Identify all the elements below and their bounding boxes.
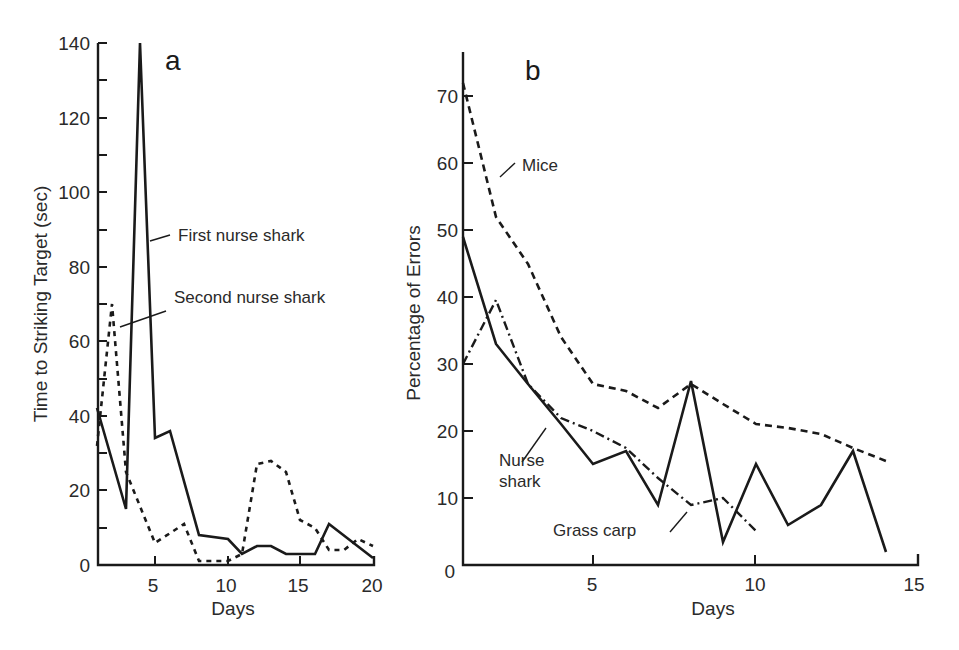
svg-text:80: 80 xyxy=(69,257,90,278)
annotation-first-nurse-shark: First nurse shark xyxy=(178,226,305,245)
series-grass-carp xyxy=(463,300,756,531)
figure: 0 20 40 60 80 100 120 140 5 10 15 20 Day… xyxy=(0,0,959,650)
chart-b-y-ticks xyxy=(463,96,473,498)
chart-a-panel-label: a xyxy=(165,45,181,76)
chart-b-y-axis-label: Percentage of Errors xyxy=(403,225,424,400)
svg-text:50: 50 xyxy=(437,220,458,241)
chart-b-x-ticks xyxy=(593,555,755,565)
chart-b-panel-label: b xyxy=(525,55,541,86)
svg-text:70: 70 xyxy=(437,86,458,107)
chart-a-x-axis-label: Days xyxy=(211,598,254,619)
annotation-second-nurse-shark: Second nurse shark xyxy=(174,288,326,307)
svg-text:30: 30 xyxy=(437,354,458,375)
annotation-nurse-shark-line2: shark xyxy=(499,472,541,491)
svg-text:20: 20 xyxy=(69,480,90,501)
svg-text:40: 40 xyxy=(69,406,90,427)
chart-b-y-tick-labels: 0 10 20 30 40 50 60 70 xyxy=(437,86,458,582)
svg-text:0: 0 xyxy=(79,555,90,576)
svg-text:40: 40 xyxy=(437,287,458,308)
svg-text:60: 60 xyxy=(69,331,90,352)
chart-a-y-tick-labels: 0 20 40 60 80 100 120 140 xyxy=(58,33,90,576)
svg-text:5: 5 xyxy=(587,574,598,595)
svg-text:10: 10 xyxy=(744,574,765,595)
series-mice xyxy=(463,83,886,461)
svg-text:100: 100 xyxy=(58,182,90,203)
leader-first-nurse-shark xyxy=(150,235,170,241)
annotation-grass-carp: Grass carp xyxy=(553,521,636,540)
chart-a-y-axis-label: Time to Striking Target (sec) xyxy=(30,186,51,423)
chart-b-x-tick-labels: 5 10 15 xyxy=(587,574,925,595)
svg-text:10: 10 xyxy=(437,488,458,509)
leader-grass-carp xyxy=(670,512,687,532)
leader-mice xyxy=(500,163,515,177)
chart-a: 0 20 40 60 80 100 120 140 5 10 15 20 Day… xyxy=(30,33,383,619)
svg-text:5: 5 xyxy=(148,575,159,596)
leader-second-nurse-shark xyxy=(120,311,166,327)
svg-text:20: 20 xyxy=(437,421,458,442)
chart-a-x-tick-labels: 5 10 15 20 xyxy=(148,575,383,596)
svg-text:60: 60 xyxy=(437,153,458,174)
svg-text:140: 140 xyxy=(58,33,90,54)
svg-text:15: 15 xyxy=(287,575,308,596)
svg-text:120: 120 xyxy=(58,108,90,129)
chart-a-y-ticks xyxy=(98,43,107,528)
series-second-nurse-shark xyxy=(97,304,373,561)
chart-b: 0 10 20 30 40 50 60 70 5 10 15 Days Perc… xyxy=(403,52,925,619)
svg-text:0: 0 xyxy=(444,561,455,582)
annotation-mice: Mice xyxy=(522,156,558,175)
svg-text:10: 10 xyxy=(215,575,236,596)
chart-b-x-axis-label: Days xyxy=(691,598,734,619)
annotation-nurse-shark-line1: Nurse xyxy=(499,451,544,470)
svg-text:20: 20 xyxy=(361,575,382,596)
svg-text:15: 15 xyxy=(903,574,924,595)
